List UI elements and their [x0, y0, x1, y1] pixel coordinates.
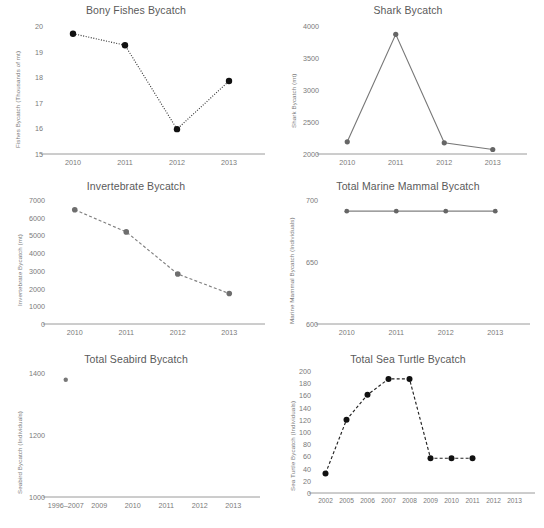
chart-panel-shark-bycatch: Shark Bycatch Shark Bycatch (mt) 2000250…	[272, 0, 544, 176]
y-tick-label: 80	[279, 440, 311, 449]
y-tick-label: 0	[13, 320, 45, 329]
data-point-marker	[449, 455, 455, 461]
x-tick-label: 2013	[221, 158, 237, 167]
data-point-marker	[226, 78, 232, 84]
y-tick-label: 2500	[287, 118, 319, 127]
chart-panel-total-marine-mammal-bycatch: Total Marine Mammal Bycatch Marine Mamma…	[272, 176, 544, 349]
y-axis-label: Seabird Bycatch (Individuals)	[16, 411, 23, 494]
chart-title: Total Seabird Bycatch	[0, 353, 272, 365]
chart-canvas	[322, 200, 532, 326]
y-tick-label: 4000	[287, 22, 319, 31]
chart-title: Total Marine Mammal Bycatch	[272, 180, 544, 192]
y-tick-label: 100	[279, 428, 311, 437]
y-tick-label: 120	[279, 415, 311, 424]
y-tick-label: 1000	[13, 493, 45, 502]
x-tick-label: 2010	[67, 328, 83, 337]
y-tick-label: 15	[11, 150, 43, 159]
x-tick-label: 2011	[389, 328, 404, 337]
x-tick-label: 2009	[91, 501, 107, 510]
y-tick-label: 19	[11, 47, 43, 56]
chart-canvas	[315, 371, 537, 495]
y-tick-label: 2000	[287, 150, 319, 159]
y-tick-label: 1000	[13, 302, 45, 311]
data-series-line	[75, 210, 230, 294]
y-tick-label: 60	[279, 452, 311, 461]
x-tick-label: 2008	[402, 497, 417, 504]
data-point-marker	[428, 455, 434, 461]
data-series-line	[347, 34, 493, 149]
x-tick-label: 2011	[159, 501, 174, 510]
y-tick-label: 18	[11, 73, 43, 82]
data-point-marker	[493, 209, 498, 214]
y-tick-label: 7000	[13, 196, 45, 205]
y-tick-label: 20	[279, 476, 311, 485]
x-tick-label: 2013	[485, 158, 501, 167]
y-axis-label: Marine Mammal Bycatch (Individuals)	[288, 217, 295, 324]
chart-title: Total Sea Turtle Bycatch	[272, 353, 544, 365]
y-tick-label: 2000	[13, 284, 45, 293]
y-tick-label: 140	[279, 403, 311, 412]
y-tick-label: 200	[279, 367, 311, 376]
chart-canvas	[47, 26, 267, 156]
y-tick-label: 700	[286, 196, 318, 205]
x-tick-label: 2012	[170, 328, 186, 337]
y-tick-label: 180	[279, 379, 311, 388]
y-tick-label: 160	[279, 391, 311, 400]
chart-panel-total-sea-turtle-bycatch: Total Sea Turtle Bycatch Sea Turtle Byca…	[272, 349, 544, 528]
y-tick-label: 5000	[13, 231, 45, 240]
data-point-marker	[386, 376, 392, 382]
data-point-marker	[123, 229, 129, 235]
x-tick-label: 2002	[318, 497, 333, 504]
data-point-marker	[443, 209, 448, 214]
x-tick-label: 2010	[65, 158, 81, 167]
chart-canvas	[323, 26, 529, 156]
y-tick-label: 6000	[13, 213, 45, 222]
x-tick-label: 2013	[507, 497, 522, 504]
chart-panel-invertebrate-bycatch: Invertebrate Bycatch Invertebrate Bycatc…	[0, 176, 272, 349]
x-tick-label: 2012	[436, 158, 452, 167]
data-point-marker	[72, 207, 78, 213]
x-tick-label: 2011	[465, 497, 479, 504]
data-point-marker	[226, 291, 232, 297]
data-point-marker	[407, 376, 413, 382]
y-tick-label: 0	[279, 489, 311, 498]
chart-title: Bony Fishes Bycatch	[0, 4, 272, 16]
x-tick-label: 2010	[339, 328, 355, 337]
chart-grid: Bony Fishes Bycatch Fishes Bycatch (Thou…	[0, 0, 544, 528]
plot-area	[49, 373, 250, 497]
chart-panel-total-seabird-bycatch: Total Seabird Bycatch Seabird Bycatch (I…	[0, 349, 272, 528]
data-point-marker	[323, 470, 329, 476]
data-point-marker	[175, 271, 181, 277]
plot-area	[323, 26, 517, 154]
data-point-marker	[174, 126, 180, 132]
x-tick-label: 2010	[339, 158, 355, 167]
data-point-marker	[470, 455, 476, 461]
y-tick-label: 650	[286, 258, 318, 267]
x-tick-label: 2013	[221, 328, 237, 337]
x-tick-label: 2010	[125, 501, 141, 510]
y-tick-label: 600	[286, 320, 318, 329]
y-tick-label: 16	[11, 124, 43, 133]
x-tick-label: 2009	[423, 497, 438, 504]
y-tick-label: 20	[11, 22, 43, 31]
data-point-marker	[365, 392, 371, 398]
data-point-marker	[490, 147, 495, 152]
x-tick-label: 2005	[339, 497, 354, 504]
plot-area	[315, 371, 525, 493]
data-series-line	[73, 34, 229, 129]
y-tick-label: 1400	[13, 369, 45, 378]
x-tick-label: 2007	[381, 497, 396, 504]
data-point-marker	[344, 209, 349, 214]
data-point-marker	[64, 378, 68, 382]
data-point-marker	[70, 30, 76, 36]
x-tick-label: 1996–2007	[48, 501, 84, 510]
data-point-marker	[122, 42, 128, 48]
chart-canvas	[49, 200, 267, 326]
chart-panel-bony-fishes-bycatch: Bony Fishes Bycatch Fishes Bycatch (Thou…	[0, 0, 272, 176]
x-tick-label: 2006	[360, 497, 375, 504]
x-tick-label: 2011	[117, 158, 132, 167]
x-tick-label: 2012	[486, 497, 501, 504]
x-tick-label: 2012	[438, 328, 454, 337]
plot-area	[49, 200, 255, 324]
chart-title: Invertebrate Bycatch	[0, 180, 272, 192]
